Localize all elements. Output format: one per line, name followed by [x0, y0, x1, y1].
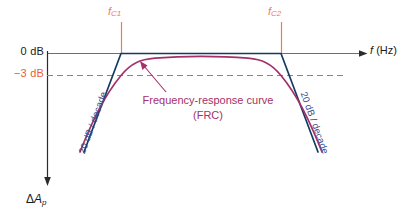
- fc1-label: fC1: [108, 6, 121, 18]
- frc-callout-arrow: [140, 61, 166, 92]
- fc2-subscript: C2: [271, 9, 281, 18]
- y-axis-delta: Δ: [26, 192, 34, 206]
- x-axis-variable: f: [370, 44, 373, 56]
- zero-db-axis-label: 0 dB: [8, 46, 44, 57]
- y-axis-variable: A: [34, 192, 42, 206]
- vertical-axis-line: [44, 51, 51, 186]
- frc-caption-line1: Frequency-response curve: [143, 94, 274, 106]
- frequency-response-figure: 0 dB −3 dB fC1 fC2 f (Hz) ΔAp 20 dB / de…: [0, 0, 411, 215]
- minus-three-db-axis-label: −3 dB: [2, 68, 44, 79]
- fc2-label: fC2: [268, 6, 281, 18]
- y-axis-label: ΔAp: [26, 193, 46, 207]
- x-axis-label: f (Hz): [370, 45, 397, 56]
- x-axis-unit: (Hz): [376, 44, 397, 56]
- y-axis-subscript: p: [42, 198, 46, 207]
- fc1-subscript: C1: [111, 9, 121, 18]
- frc-caption-line2: (FRC): [193, 109, 223, 121]
- frc-caption: Frequency-response curve (FRC): [126, 93, 290, 123]
